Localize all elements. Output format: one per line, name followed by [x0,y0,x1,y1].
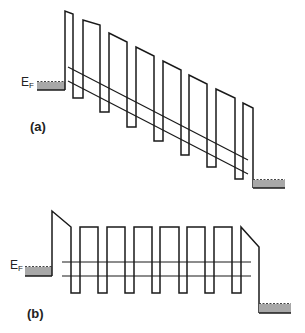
energy-level-lower-a [68,81,248,174]
energy-level-upper-a [68,67,248,160]
left-electrode-b [25,267,52,277]
right-electrode-a [253,180,285,189]
panel-b [25,211,291,313]
fermi-label-main: E [21,75,29,89]
right-electrode-b [259,304,291,314]
panel-a [37,11,285,188]
panel-label-a: (a) [30,119,46,134]
fermi-level-label-b: EF [10,258,23,273]
band-diagram-canvas [0,0,305,333]
fermi-level-label-a: EF [21,75,34,90]
fermi-label-main: E [10,258,18,272]
left-electrode-a [37,82,65,91]
panel-label-b: (b) [27,306,44,321]
fermi-label-sub: F [18,264,23,273]
fermi-label-sub: F [29,81,34,90]
